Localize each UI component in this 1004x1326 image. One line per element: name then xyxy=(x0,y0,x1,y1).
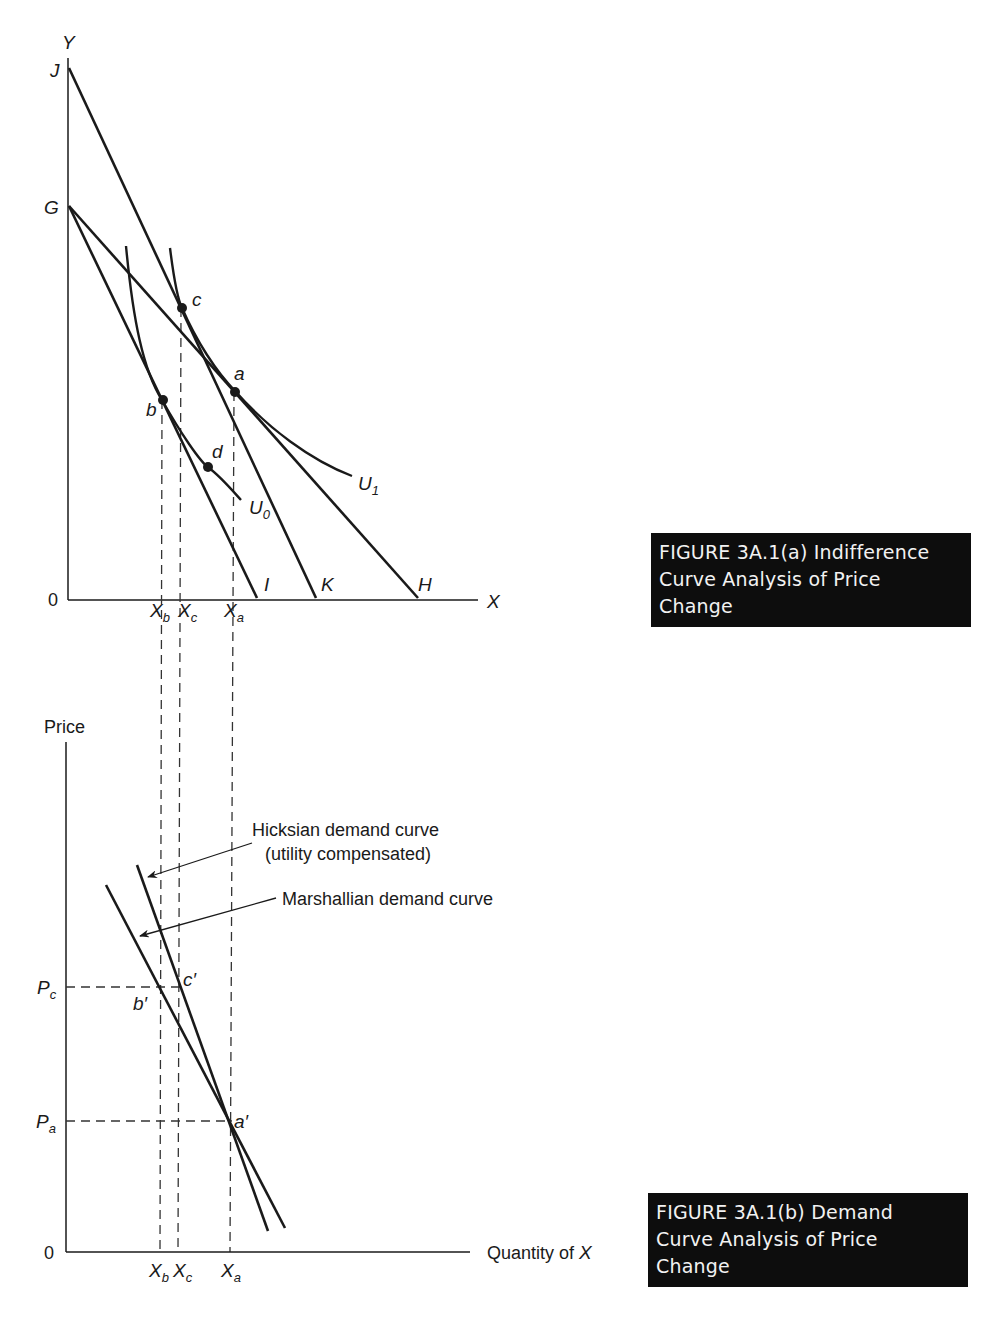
intercept-K-label: K xyxy=(321,574,335,595)
hicksian-sublabel: (utility compensated) xyxy=(265,844,431,864)
price-tick-pc: Pc xyxy=(37,977,57,1002)
point-a-label: a xyxy=(234,363,245,384)
price-tick-pa: Pa xyxy=(36,1111,56,1136)
caption-b-line-2: Curve Analysis of Price xyxy=(656,1226,962,1253)
point-a xyxy=(230,387,240,397)
panel-b-demand: Hicksian demand curve (utility compensat… xyxy=(36,717,593,1285)
drop-line-xc xyxy=(178,308,181,1252)
drop-line-xb xyxy=(160,400,162,1252)
marshallian-label: Marshallian demand curve xyxy=(282,889,493,909)
origin-label-b: 0 xyxy=(44,1243,54,1263)
point-b-label: b xyxy=(146,399,157,420)
y-axis-label: Y xyxy=(62,32,76,53)
caption-a-line-1: FIGURE 3A.1(a) Indifference xyxy=(659,539,965,566)
point-d xyxy=(203,462,213,472)
indifference-curve-U1 xyxy=(170,248,352,476)
point-d-label: d xyxy=(212,441,224,462)
marshallian-demand-curve xyxy=(106,885,285,1228)
curve-U0-label: U0 xyxy=(249,497,271,522)
caption-figure-a: FIGURE 3A.1(a) Indifference Curve Analys… xyxy=(651,533,971,627)
tick-Xa-b: Xa xyxy=(220,1260,241,1285)
indifference-curve-U0 xyxy=(126,246,241,500)
caption-b-line-1: FIGURE 3A.1(b) Demand xyxy=(656,1199,962,1226)
budget-line-GH xyxy=(69,206,418,598)
point-c-label: c xyxy=(192,289,202,310)
price-axis-label: Price xyxy=(44,717,85,737)
hicksian-label: Hicksian demand curve xyxy=(252,820,439,840)
caption-a-line-3: Change xyxy=(659,593,965,620)
caption-b-line-3: Change xyxy=(656,1253,962,1280)
x-axis-label: X xyxy=(486,591,501,612)
panel-a-indifference: Y J G c a b d U1 U0 I K H 0 X Xb Xc Xa xyxy=(44,32,501,1252)
caption-figure-b: FIGURE 3A.1(b) Demand Curve Analysis of … xyxy=(648,1193,968,1287)
hicksian-demand-curve xyxy=(137,865,268,1231)
intercept-H-label: H xyxy=(418,574,432,595)
point-c-prime-label: c′ xyxy=(183,969,198,990)
point-b xyxy=(158,395,168,405)
tick-Xb-a: Xb xyxy=(149,600,170,625)
point-b-prime-label: b′ xyxy=(133,993,149,1014)
caption-a-line-2: Curve Analysis of Price xyxy=(659,566,965,593)
intercept-I-label: I xyxy=(264,574,270,595)
point-a-prime-label: a′ xyxy=(234,1111,250,1132)
tick-Xc-a: Xc xyxy=(177,600,198,625)
budget-line-JK xyxy=(69,68,316,598)
intercept-J-label: J xyxy=(49,60,60,81)
origin-label-a: 0 xyxy=(48,590,58,610)
tick-Xc-b: Xc xyxy=(172,1260,193,1285)
hicksian-arrow xyxy=(148,843,252,877)
curve-U1-label: U1 xyxy=(358,473,379,498)
intercept-G-label: G xyxy=(44,197,59,218)
point-c xyxy=(177,303,187,313)
quantity-axis-label: Quantity of X xyxy=(487,1242,593,1263)
tick-Xb-b: Xb xyxy=(148,1260,169,1285)
price-change-diagram: Y J G c a b d U1 U0 I K H 0 X Xb Xc Xa xyxy=(0,0,1004,1326)
